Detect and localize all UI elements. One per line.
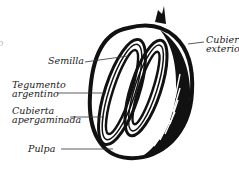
label-semilla: Semilla <box>48 56 84 66</box>
label-tegumento-line2: argentino <box>12 89 59 99</box>
label-cubierta-exterior-line2: exterior <box>206 44 239 54</box>
label-pulpa: Pulpa <box>28 144 55 154</box>
edge-fragment: o <box>0 38 3 48</box>
label-cubierta-apergaminada-line2: apergaminada <box>12 115 81 125</box>
